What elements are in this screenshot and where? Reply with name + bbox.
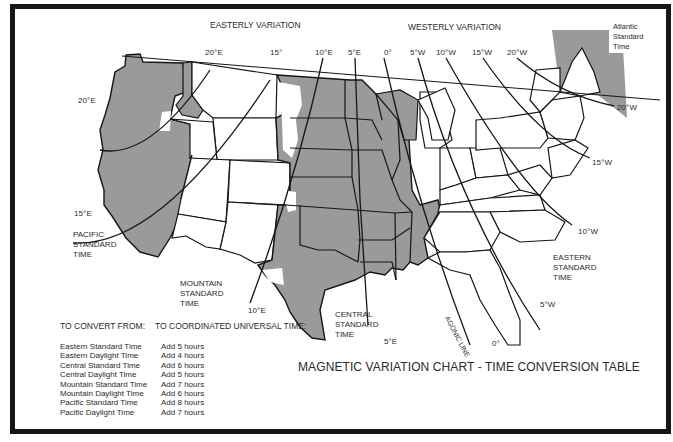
conversion-from-cell: Central Daylight Time	[60, 370, 147, 379]
atlantic-zone-label: Atlantic Standard Time	[609, 20, 655, 53]
conversion-from-cell: Central Standard Time	[60, 361, 147, 370]
label-5e-top: 5°E	[348, 48, 361, 57]
central-zone-label: CENTRAL STANDARD TIME	[335, 310, 378, 340]
label-20e-left: 20°E	[78, 96, 96, 105]
convert-to-list: Add 5 hours Add 4 hours Add 6 hours Add …	[161, 342, 204, 417]
conversion-from-cell: Eastern Standard Time	[60, 342, 147, 351]
label-15w-right: 15°W	[592, 158, 612, 167]
conversion-from-cell: Pacific Daylight Time	[60, 408, 147, 417]
chart-title: MAGNETIC VARIATION CHART - TIME CONVERSI…	[298, 360, 640, 374]
conversion-from-cell: Pacific Standard Time	[60, 398, 147, 407]
conversion-to-cell: Add 6 hours	[161, 361, 204, 370]
westerly-variation-header: WESTERLY VARIATION	[408, 22, 501, 32]
label-5w-bottom: 5°W	[540, 300, 556, 309]
conversion-to-cell: Add 7 hours	[161, 380, 204, 389]
conversion-to-cell: Add 5 hours	[161, 342, 204, 351]
label-20e-top: 20°E	[205, 48, 223, 57]
conversion-from-cell: Mountain Daylight Time	[60, 389, 147, 398]
conversion-to-cell: Add 6 hours	[161, 389, 204, 398]
label-10e-bottom: 10°E	[248, 306, 266, 315]
conversion-to-cell: Add 7 hours	[161, 408, 204, 417]
label-15-top: 15°	[270, 48, 282, 57]
label-15w-top: 15°W	[472, 48, 492, 57]
label-5e-bottom: 5°E	[384, 337, 397, 346]
label-10w-right: 10°W	[578, 227, 598, 236]
conversion-from-cell: Mountain Standard Time	[60, 380, 147, 389]
label-0-top: 0°	[384, 48, 392, 57]
mountain-zone-label: MOUNTAIN STANDARD TIME	[180, 279, 223, 309]
eastern-zone-label: EASTERN STANDARD TIME	[553, 253, 596, 283]
label-20w-right: 20°W	[617, 103, 637, 112]
convert-from-list: Eastern Standard Time Eastern Daylight T…	[60, 342, 147, 417]
convert-to-header: TO COORDINATED UNIVERSAL TIME:	[155, 321, 306, 331]
pacific-zone-label: PACIFIC STANDARD TIME	[73, 230, 116, 260]
label-5w-top: 5°W	[410, 48, 426, 57]
convert-from-header: TO CONVERT FROM:	[60, 321, 145, 331]
conversion-from-cell: Eastern Daylight Time	[60, 351, 147, 360]
easterly-variation-header: EASTERLY VARIATION	[210, 20, 301, 30]
label-0-bottom: 0°	[492, 339, 500, 348]
conversion-to-cell: Add 5 hours	[161, 370, 204, 379]
conversion-to-cell: Add 8 hours	[161, 398, 204, 407]
label-10e-top: 10°E	[315, 48, 333, 57]
label-20w-top: 20°W	[507, 48, 527, 57]
label-15e-left: 15°E	[74, 209, 92, 218]
conversion-to-cell: Add 4 hours	[161, 351, 204, 360]
label-10w-top: 10°W	[436, 48, 456, 57]
